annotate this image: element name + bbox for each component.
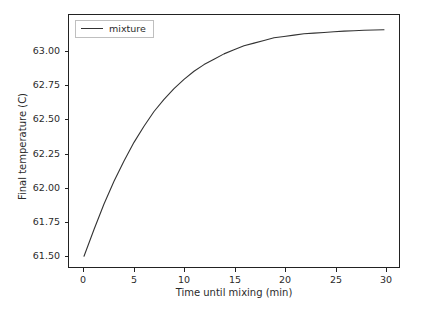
xtick-mark xyxy=(184,268,185,272)
xtick-label: 25 xyxy=(330,275,342,285)
plot-axes xyxy=(68,14,400,268)
ytick-mark xyxy=(65,222,69,223)
legend-line-swatch xyxy=(81,28,103,29)
line-chart-svg xyxy=(69,15,399,267)
xtick-label: 5 xyxy=(131,275,137,285)
x-axis-label: Time until mixing (min) xyxy=(68,287,400,298)
xtick-label: 10 xyxy=(178,275,190,285)
legend-label-mixture: mixture xyxy=(109,24,146,34)
xtick-mark xyxy=(83,268,84,272)
ytick-mark xyxy=(65,188,69,189)
xtick-label: 15 xyxy=(229,275,241,285)
xtick-mark xyxy=(336,268,337,272)
ytick-mark xyxy=(65,154,69,155)
ytick-mark xyxy=(65,51,69,52)
ytick-label: 61.50 xyxy=(18,251,60,261)
xtick-mark xyxy=(386,268,387,272)
xtick-label: 0 xyxy=(80,275,86,285)
ytick-mark xyxy=(65,85,69,86)
ytick-mark xyxy=(65,256,69,257)
y-axis-label: Final temperature (C) xyxy=(17,67,28,227)
xtick-mark xyxy=(285,268,286,272)
xtick-mark xyxy=(134,268,135,272)
xtick-label: 30 xyxy=(380,275,392,285)
xtick-mark xyxy=(235,268,236,272)
ytick-label: 63.00 xyxy=(18,46,60,56)
ytick-mark xyxy=(65,119,69,120)
figure-canvas: 63.00 62.75 62.50 62.25 62.00 61.75 61.5… xyxy=(0,0,421,309)
series-line-mixture xyxy=(84,30,384,257)
chart-legend: mixture xyxy=(75,20,154,38)
xtick-label: 20 xyxy=(279,275,291,285)
